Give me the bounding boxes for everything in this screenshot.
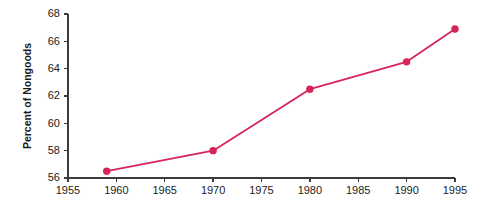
x-tick-label: 1975: [249, 184, 273, 196]
data-point-marker: [210, 148, 216, 154]
chart-canvas: 56586062646668 1955196019651970197519801…: [0, 0, 498, 210]
y-tick-label: 60: [48, 117, 60, 129]
data-point-marker: [404, 59, 410, 65]
x-tick-label: 1960: [104, 184, 128, 196]
y-tick-label: 56: [48, 171, 60, 183]
x-tick-label: 1995: [443, 184, 467, 196]
y-tick-label: 62: [48, 89, 60, 101]
x-tick-label: 1955: [56, 184, 80, 196]
line-chart: 56586062646668 1955196019651970197519801…: [0, 0, 498, 210]
y-axis-title-text: Percent of Nongoods: [21, 43, 33, 149]
x-tick-label: 1970: [201, 184, 225, 196]
data-point-marker: [307, 86, 313, 92]
x-tick-label: 1980: [298, 184, 322, 196]
y-tick-label: 66: [48, 35, 60, 47]
y-tick-label: 68: [48, 7, 60, 19]
x-tick-label: 1990: [394, 184, 418, 196]
x-tick-label: 1965: [153, 184, 177, 196]
x-tick-label: 1985: [346, 184, 370, 196]
y-tick-label: 58: [48, 144, 60, 156]
y-axis-title: Percent of Nongoods: [21, 43, 33, 149]
data-point-marker: [104, 168, 110, 174]
y-tick-label: 64: [48, 62, 60, 74]
data-point-marker: [452, 26, 458, 32]
